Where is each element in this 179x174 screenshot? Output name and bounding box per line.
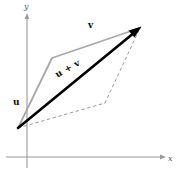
vector-addition-figure: v u u + v y x bbox=[0, 0, 179, 174]
y-axis bbox=[25, 13, 30, 168]
x-axis-arrowhead bbox=[160, 155, 166, 160]
y-axis-label: y bbox=[24, 3, 29, 11]
sum-vector-arrow bbox=[18, 27, 142, 129]
x-axis bbox=[6, 155, 166, 160]
vector-v-label: v bbox=[88, 21, 93, 30]
x-axis-label: x bbox=[168, 155, 173, 163]
y-axis-arrowhead bbox=[25, 13, 30, 19]
vector-u-label: u bbox=[13, 98, 20, 107]
